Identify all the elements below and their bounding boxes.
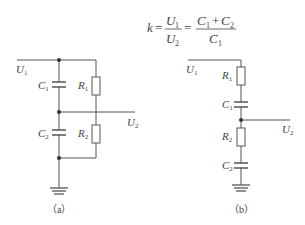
label-c2-b: C2	[222, 160, 233, 173]
label-c1-a: C1	[38, 80, 49, 93]
resistor-r2-a	[92, 125, 100, 143]
ground-icon-b	[232, 185, 250, 191]
resistor-r2-b	[237, 128, 245, 146]
label-u1-a: U1	[16, 64, 27, 77]
junction-dot	[57, 58, 61, 62]
label-c2-a: C2	[38, 128, 49, 141]
label-r1-b: R1	[222, 70, 232, 83]
resistor-r1-a	[92, 77, 100, 95]
caption-b: （b）	[229, 201, 254, 216]
label-c1-b: C1	[222, 99, 233, 112]
label-r1-a: R1	[78, 80, 88, 93]
label-u2-b: U2	[282, 124, 293, 137]
circuit-diagrams	[0, 0, 305, 225]
ground-icon-a	[50, 188, 68, 194]
circuit-b-wiring	[188, 60, 290, 191]
junction-dot	[57, 156, 61, 160]
junction-dot	[239, 118, 243, 122]
label-u1-b: U1	[186, 64, 197, 77]
resistor-r1-b	[237, 67, 245, 85]
circuit-a-wiring	[17, 60, 135, 194]
label-r2-a: R2	[78, 128, 88, 141]
label-u2-a: U2	[127, 117, 138, 130]
label-r2-b: R2	[222, 131, 232, 144]
caption-a: （a）	[47, 201, 71, 216]
junction-dot	[57, 110, 61, 114]
